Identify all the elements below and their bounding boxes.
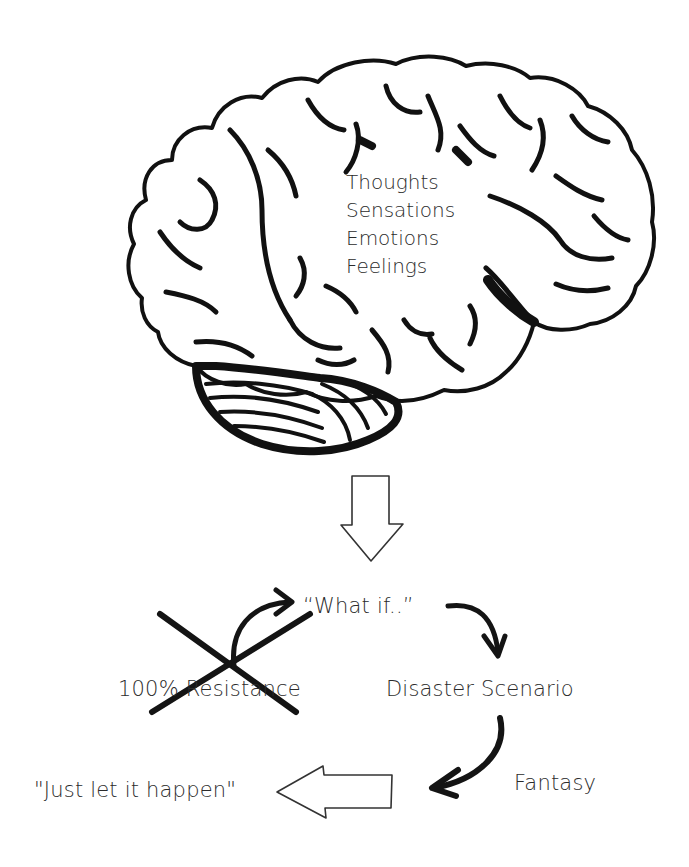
node-resistance: 100% Resistance [118, 677, 301, 701]
node-disaster-scenario: Disaster Scenario [386, 677, 574, 701]
node-fantasy: Fantasy [514, 771, 596, 795]
diagram-canvas: Thoughts Sensations Emotions Feelings [0, 0, 689, 867]
hollow-left-arrow-icon [0, 0, 689, 867]
node-what-if: “What if..” [303, 594, 414, 618]
node-just-let-it-happen: "Just let it happen" [34, 778, 236, 802]
